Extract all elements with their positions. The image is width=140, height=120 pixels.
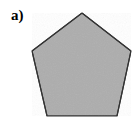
pentagon-figure — [0, 0, 140, 120]
pentagon-shape — [32, 13, 131, 116]
figure-panel: a) — [0, 0, 140, 120]
